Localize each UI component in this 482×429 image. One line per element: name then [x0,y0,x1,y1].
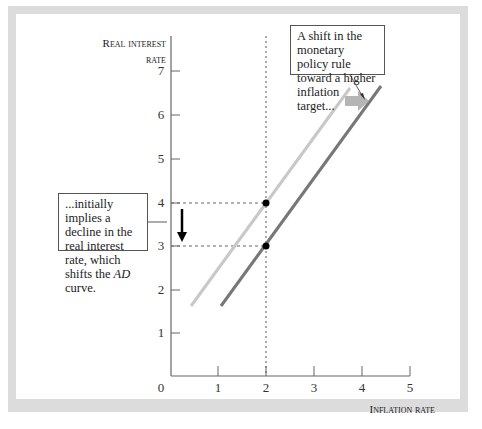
equilibrium-point-initial [263,200,270,207]
decline-down-arrow-icon [177,209,187,242]
y-tick-label-4: 4 [153,195,169,211]
x-tick-label-3: 3 [306,380,322,396]
annotation-rate-decline: ...initially implies a decline in the re… [58,193,148,251]
y-ticks [171,71,180,333]
y-tick-label-2: 2 [153,282,169,298]
x-axis-title: Inflation rate [330,403,435,415]
annotation-policy-shift: A shift in the monetary policy rule towa… [290,25,385,75]
y-axis-title-line1: Real interest [90,35,166,51]
x-tick-label-1: 1 [210,380,226,396]
origin-label: 0 [153,380,169,396]
x-ticks [218,366,410,376]
original-policy-rule-line [191,88,350,306]
y-tick-label-1: 1 [153,325,169,341]
x-tick-label-5: 5 [402,380,418,396]
equilibrium-point-new [263,243,270,250]
annotation-ad-italic: AD [114,267,131,281]
new-policy-rule-line [221,86,381,306]
annotation-rate-decline-end: curve. [65,281,96,295]
y-tick-label-6: 6 [153,107,169,123]
y-tick-label-5: 5 [153,151,169,167]
y-tick-label-7: 7 [153,63,169,79]
x-tick-label-4: 4 [354,380,370,396]
y-tick-label-3: 3 [153,238,169,254]
x-tick-label-2: 2 [258,380,274,396]
